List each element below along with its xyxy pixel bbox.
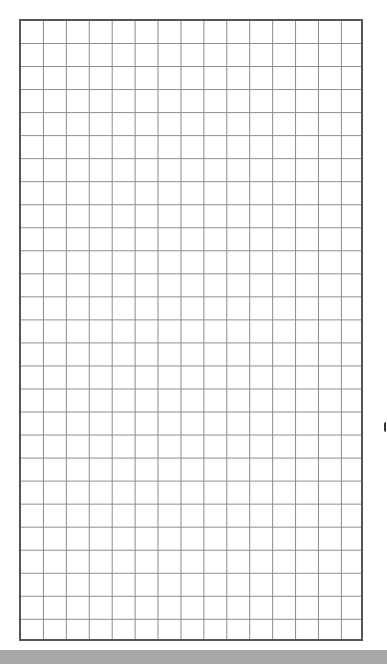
graph-paper-grid — [19, 19, 363, 641]
bottom-bar — [0, 650, 387, 664]
